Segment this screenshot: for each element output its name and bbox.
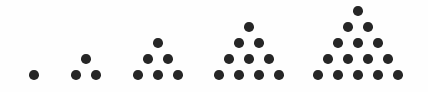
dot (383, 54, 393, 64)
figure-5 (0, 0, 428, 92)
dot (363, 22, 373, 32)
dot (373, 70, 383, 80)
dot (353, 6, 363, 16)
dot (313, 70, 323, 80)
dot (373, 38, 383, 48)
dot (353, 38, 363, 48)
dot (323, 54, 333, 64)
dot (393, 70, 403, 80)
dot (363, 54, 373, 64)
dot-pattern-canvas (0, 0, 428, 92)
dot (353, 70, 363, 80)
dot (343, 22, 353, 32)
dot (343, 54, 353, 64)
dot (333, 38, 343, 48)
dot (333, 70, 343, 80)
